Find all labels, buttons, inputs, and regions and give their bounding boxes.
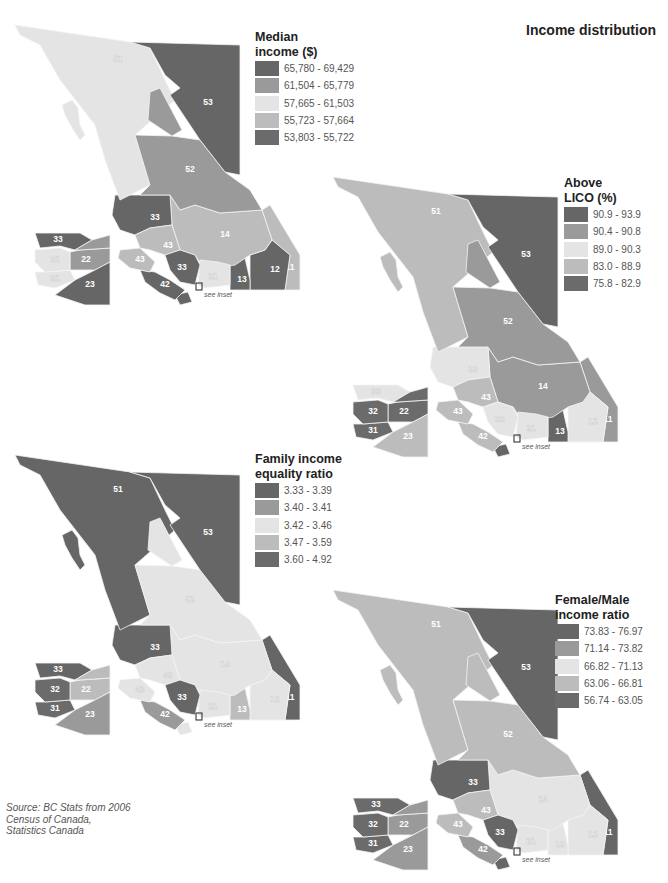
legend-item: 75.8 - 82.9: [564, 275, 641, 292]
map-panel-family-income-equality: 111213142133424351525343332223313233see …: [0, 430, 340, 730]
region-label-22: 22: [399, 406, 409, 416]
legend-label: 3.47 - 3.59: [284, 537, 332, 548]
legend-item: 90.9 - 93.9: [564, 206, 641, 223]
region-label-42: 42: [478, 431, 488, 441]
legend-item: 89.0 - 90.3: [564, 241, 641, 258]
region-label-33: 33: [150, 642, 160, 652]
source-note: Source: BC Stats from 2006 Census of Can…: [6, 802, 131, 837]
legend-item: 63.06 - 66.81: [555, 675, 643, 692]
legend-label: 73.83 - 76.97: [584, 626, 643, 637]
region-label-13: 13: [555, 839, 565, 849]
legend-swatch: [255, 130, 279, 145]
region-label-31: 31: [50, 273, 60, 283]
region-label-51: 51: [113, 484, 123, 494]
legend-swatch: [564, 276, 588, 291]
region-label-33i: 33: [371, 386, 381, 396]
region-label-33i: 33: [53, 664, 63, 674]
region-label-12: 12: [270, 264, 280, 274]
region-label-53: 53: [521, 249, 531, 259]
legend-female-male-income-ratio: Female/Male income ratio 73.83 - 76.97 7…: [555, 593, 643, 709]
legend-label: 63.06 - 66.81: [584, 678, 643, 689]
region-label-14: 14: [220, 229, 230, 239]
legend-item: 83.0 - 88.9: [564, 258, 641, 275]
region-label-31: 31: [368, 838, 378, 848]
region-label-51: 51: [431, 206, 441, 216]
legend-label: 83.0 - 88.9: [593, 261, 641, 272]
source-line: Census of Canada,: [6, 814, 131, 826]
region-label-13: 13: [237, 274, 247, 284]
map-panel-above-lico: 111213142133424351525343332223313233see …: [318, 152, 668, 452]
legend-title-line: equality ratio: [255, 467, 342, 482]
region-label-33: 33: [150, 212, 160, 222]
legend-swatch: [255, 483, 279, 498]
region-label-22: 22: [81, 684, 91, 694]
region-label-21: 21: [526, 423, 536, 433]
region-label-23: 23: [85, 709, 95, 719]
region-label-21: 21: [526, 836, 536, 846]
legend-title-line: Above: [564, 176, 641, 191]
region-label-42: 42: [478, 844, 488, 854]
region-label-33s: 33: [495, 414, 505, 424]
region-label-12: 12: [270, 694, 280, 704]
legend-item: 71.14 - 73.82: [555, 640, 643, 657]
legend-item: 3.47 - 3.59: [255, 534, 342, 551]
legend-label: 3.33 - 3.39: [284, 485, 332, 496]
region-label-13: 13: [555, 426, 565, 436]
legend-swatch: [564, 207, 588, 222]
region-label-13: 13: [237, 704, 247, 714]
region-label-14: 14: [538, 794, 548, 804]
legend-swatch: [555, 693, 579, 708]
region-label-21: 21: [208, 271, 218, 281]
region-label-42: 42: [160, 279, 170, 289]
legend-item: 3.42 - 3.46: [255, 517, 342, 534]
region-label-53: 53: [203, 527, 213, 537]
region-label-12: 12: [588, 416, 598, 426]
see-inset-label: see inset: [522, 856, 551, 863]
region-label-43b: 43: [453, 819, 463, 829]
legend-above-lico: Above LICO (%) 90.9 - 93.9 90.4 - 90.8 8…: [564, 176, 641, 292]
legend-item: 55,723 - 57,664: [255, 112, 354, 129]
region-label-12: 12: [588, 829, 598, 839]
region-label-32: 32: [368, 406, 378, 416]
legend-item: 73.83 - 76.97: [555, 623, 643, 640]
legend-item: 3.33 - 3.39: [255, 482, 342, 499]
region-label-33: 33: [468, 777, 478, 787]
region-label-32: 32: [50, 254, 60, 264]
legend-label: 57,665 - 61,503: [284, 98, 354, 109]
legend-title-line: LICO (%): [564, 191, 641, 206]
region-label-33i: 33: [371, 799, 381, 809]
region-label-52: 52: [503, 729, 513, 739]
page-title: Income distribution: [526, 22, 656, 38]
legend-swatch: [555, 659, 579, 674]
see-inset-label: see inset: [204, 721, 233, 728]
see-inset-label: see inset: [204, 291, 233, 298]
legend-swatch: [555, 676, 579, 691]
legend-label: 61,504 - 65,779: [284, 80, 354, 91]
legend-item: 66.82 - 71.13: [555, 658, 643, 675]
legend-label: 3.60 - 4.92: [284, 554, 332, 565]
legend-label: 3.42 - 3.46: [284, 520, 332, 531]
region-label-33: 33: [468, 364, 478, 374]
region-label-43: 43: [163, 670, 173, 680]
region-label-14: 14: [220, 659, 230, 669]
map-panel-female-male-income-ratio: 111213142133424351525343332223313233see …: [318, 565, 668, 883]
legend-item: 53,803 - 55,722: [255, 129, 354, 146]
legend-label: 75.8 - 82.9: [593, 278, 641, 289]
legend-swatch: [555, 641, 579, 656]
region-label-52: 52: [185, 594, 195, 604]
legend-median-income: Median income ($) 65,780 - 69,429 61,504…: [255, 30, 354, 146]
region-label-43: 43: [481, 392, 491, 402]
legend-item: 65,780 - 69,429: [255, 60, 354, 77]
legend-title-line: Median: [255, 30, 354, 45]
map-panel-median-income: 111213142133424351525343332223313233see …: [0, 0, 340, 300]
legend-label: 90.4 - 90.8: [593, 226, 641, 237]
legend-label: 90.9 - 93.9: [593, 209, 641, 220]
legend-swatch: [255, 96, 279, 111]
region-label-22: 22: [81, 254, 91, 264]
legend-swatch: [255, 518, 279, 533]
legend-label: 66.82 - 71.13: [584, 661, 643, 672]
legend-label: 55,723 - 57,664: [284, 115, 354, 126]
legend-swatch: [564, 259, 588, 274]
legend-swatch: [255, 113, 279, 128]
legend-label: 53,803 - 55,722: [284, 132, 354, 143]
